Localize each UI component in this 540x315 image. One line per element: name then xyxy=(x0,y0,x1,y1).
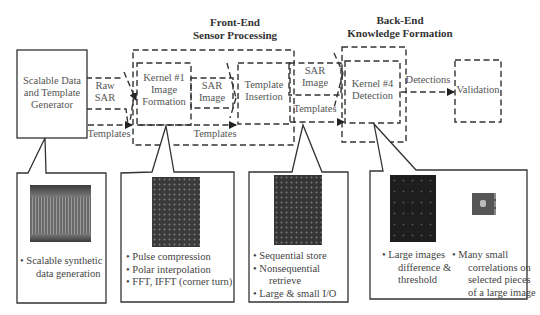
raw-sar-label: Raw SAR xyxy=(88,80,122,104)
back-end-header: Back-End Knowledge Formation xyxy=(330,14,470,40)
sar-image-1-line-1: SAR xyxy=(191,80,233,92)
front-end-header: Front-End Sensor Processing xyxy=(175,16,295,42)
sar-image-2-label: SAR Image xyxy=(289,65,341,89)
bullet-item: Sequential store xyxy=(253,250,336,263)
front-end-subtitle: Sensor Processing xyxy=(175,29,295,42)
sar-image-1-label: SAR Image xyxy=(191,80,233,104)
template-insertion-label: Template Insertion xyxy=(238,79,290,103)
detections-label: Detections xyxy=(402,74,454,86)
bullet-item: Nonsequentialretrieve xyxy=(253,263,336,288)
synthetic-data-image-icon xyxy=(30,185,91,242)
callout-1-bullets: Scalable syntheticdata generation xyxy=(20,255,102,280)
bullet-item: Large & small I/O xyxy=(253,288,336,301)
callout-2-bullets: Pulse compression Polar interpolation FF… xyxy=(126,251,232,289)
callout-4-left-bullets: Large imagesdifference &threshold xyxy=(382,249,451,287)
generator-line-3: Generator xyxy=(17,99,87,111)
raw-sar-line-2: SAR xyxy=(88,92,122,104)
sar-image-1-line-2: Image xyxy=(191,92,233,104)
templates-label-3: Templates xyxy=(290,103,340,115)
bullet-item: Polar interpolation xyxy=(126,264,232,277)
validation-label: Validation xyxy=(452,84,504,96)
bullet-item: Pulse compression xyxy=(126,251,232,264)
templates-label-2: Templates xyxy=(190,128,240,140)
kernel4-line-2: Detection xyxy=(345,90,400,102)
stored-sar-image-icon xyxy=(274,175,322,245)
callout-3-bullets: Sequential store Nonsequentialretrieve L… xyxy=(253,250,336,300)
formed-sar-image-icon xyxy=(152,177,200,247)
kernel1-line-2: Image xyxy=(137,84,191,96)
template-insertion-line-1: Template xyxy=(238,79,290,91)
back-end-title: Back-End xyxy=(330,14,470,27)
bullet-item: Large imagesdifference &threshold xyxy=(382,249,451,287)
generator-label: Scalable Data and Template Generator xyxy=(17,75,87,111)
generator-line-2: and Template xyxy=(17,87,87,99)
correlation-chip-icon xyxy=(472,193,496,215)
kernel1-label: Kernel #1 Image Formation xyxy=(137,72,191,108)
template-insertion-line-2: Insertion xyxy=(238,91,290,103)
kernel1-line-3: Formation xyxy=(137,96,191,108)
templates-label-1: Templates xyxy=(86,128,132,140)
bullet-item: Many smallcorrelations onselected pieces… xyxy=(452,249,536,299)
front-end-title: Front-End xyxy=(175,16,295,29)
kernel4-line-1: Kernel #4 xyxy=(345,78,400,90)
callout-4-right-bullets: Many smallcorrelations onselected pieces… xyxy=(452,249,536,299)
kernel1-line-1: Kernel #1 xyxy=(137,72,191,84)
generator-line-1: Scalable Data xyxy=(17,75,87,87)
sar-image-2-line-1: SAR xyxy=(289,65,341,77)
raw-sar-line-1: Raw xyxy=(88,80,122,92)
back-end-subtitle: Knowledge Formation xyxy=(330,27,470,40)
bullet-item: Scalable syntheticdata generation xyxy=(20,255,102,280)
difference-image-icon xyxy=(390,175,436,242)
sar-image-2-line-2: Image xyxy=(289,77,341,89)
kernel4-label: Kernel #4 Detection xyxy=(345,78,400,102)
bullet-item: FFT, IFFT (corner turn) xyxy=(126,276,232,289)
